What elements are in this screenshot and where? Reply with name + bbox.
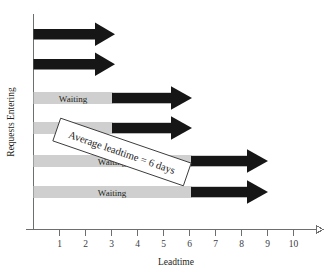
processing-arrow-shaft — [34, 59, 99, 70]
x-tick-label: 10 — [289, 239, 299, 249]
processing-arrow-head-icon — [95, 23, 115, 47]
x-tick-label: 6 — [187, 239, 192, 249]
x-tick-label: 7 — [213, 239, 218, 249]
x-axis-arrowhead-icon — [316, 226, 323, 234]
processing-arrow-head-icon — [95, 53, 115, 77]
processing-arrow-shaft — [191, 156, 251, 167]
x-tick-label: 3 — [109, 239, 114, 249]
x-tick-label: 2 — [83, 239, 88, 249]
processing-arrow-head-icon — [171, 86, 192, 109]
processing-arrow-head-icon — [171, 116, 192, 139]
request-row: Waiting — [34, 86, 193, 109]
request-row: Waiting — [34, 180, 269, 203]
processing-arrow-shaft — [191, 187, 251, 198]
x-tick-label: 4 — [135, 239, 140, 249]
processing-arrow-head-icon — [247, 180, 268, 203]
x-tick-label: 5 — [161, 239, 166, 249]
waiting-bar-label: Waiting — [98, 188, 127, 198]
request-row — [34, 23, 116, 47]
x-axis-tick-labels: 1 2 3 4 5 6 7 8 9 10 — [57, 239, 298, 249]
processing-arrow-shaft — [112, 123, 175, 134]
request-row — [34, 53, 116, 77]
processing-arrow-head-icon — [247, 149, 268, 172]
x-tick-label: 1 — [57, 239, 62, 249]
y-axis-title: Requests Entering — [6, 87, 16, 157]
x-tick-label: 8 — [239, 239, 244, 249]
x-axis-title: Leadtime — [158, 257, 194, 267]
processing-arrow-shaft — [34, 29, 99, 40]
waiting-bar-label: Waiting — [59, 94, 88, 104]
chart-canvas: 1 2 3 4 5 6 7 8 9 10 Leadtime Requests E… — [0, 0, 331, 275]
processing-arrow-shaft — [112, 93, 175, 104]
x-axis-ticks — [60, 230, 294, 237]
leadtime-chart: 1 2 3 4 5 6 7 8 9 10 Leadtime Requests E… — [0, 0, 331, 275]
x-tick-label: 9 — [265, 239, 270, 249]
